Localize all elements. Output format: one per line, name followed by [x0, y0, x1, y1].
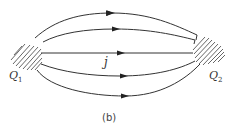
electrode-label-q2: Q2	[209, 69, 223, 84]
current-density-label: j	[104, 55, 108, 69]
flow-line-inner-bottom	[41, 61, 195, 76]
arrow-icon	[121, 94, 129, 99]
arrow-icon	[120, 74, 128, 79]
figure-caption: (b)	[102, 112, 116, 123]
electrode-q2-hatching	[193, 37, 225, 65]
arrow-icon	[107, 11, 115, 16]
electrode-label-q1: Q1	[9, 69, 23, 84]
flow-line-inner-top	[43, 29, 195, 44]
current-flow-diagram	[0, 0, 233, 132]
arrowheads	[107, 11, 129, 99]
arrow-icon	[117, 51, 125, 56]
arrow-icon	[112, 27, 120, 32]
electrode-q1-hatching	[11, 44, 42, 70]
